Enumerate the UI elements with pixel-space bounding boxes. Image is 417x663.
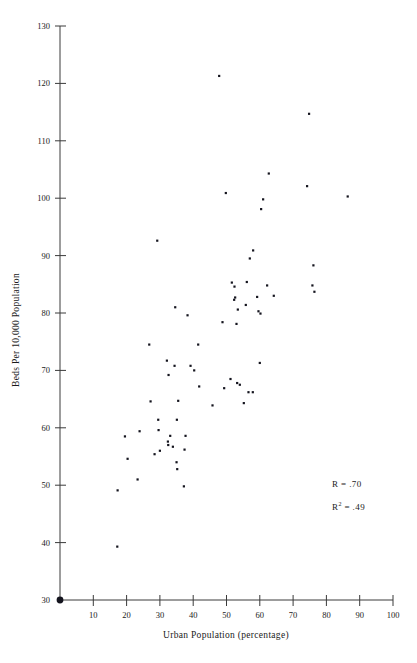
y-tick-label: 60 bbox=[42, 423, 51, 433]
data-point bbox=[245, 304, 247, 306]
data-point bbox=[184, 435, 186, 437]
y-tick-label: 130 bbox=[37, 21, 50, 31]
data-point bbox=[233, 299, 235, 301]
data-point bbox=[175, 461, 177, 463]
data-point bbox=[257, 310, 259, 312]
data-point bbox=[117, 489, 119, 491]
data-point bbox=[262, 198, 264, 200]
y-tick-label: 100 bbox=[37, 193, 50, 203]
data-point bbox=[138, 430, 140, 432]
data-point bbox=[233, 286, 235, 288]
data-point bbox=[193, 369, 195, 371]
data-points-layer bbox=[116, 75, 349, 548]
data-point bbox=[306, 185, 308, 187]
r-squared-annotation: R2 = .49 bbox=[332, 501, 365, 512]
data-point bbox=[249, 257, 251, 259]
x-tick-label: 90 bbox=[355, 610, 364, 620]
data-point bbox=[176, 419, 178, 421]
data-point bbox=[231, 281, 233, 283]
data-point bbox=[167, 444, 169, 446]
data-point bbox=[237, 308, 239, 310]
y-tick-label: 70 bbox=[42, 365, 51, 375]
data-point bbox=[235, 323, 237, 325]
data-point bbox=[312, 264, 314, 266]
data-point bbox=[183, 449, 185, 451]
x-tick-label: 40 bbox=[189, 610, 198, 620]
data-point bbox=[167, 440, 169, 442]
data-point bbox=[136, 478, 138, 480]
data-point bbox=[156, 240, 158, 242]
data-point bbox=[311, 284, 313, 286]
x-tick-label: 50 bbox=[222, 610, 231, 620]
data-point bbox=[197, 343, 199, 345]
data-point bbox=[273, 295, 275, 297]
x-tick-label: 30 bbox=[156, 610, 165, 620]
scatter-plot-figure: 30405060708090100110120130 1020304050607… bbox=[0, 0, 417, 663]
chart-canvas: 30405060708090100110120130 1020304050607… bbox=[0, 0, 417, 663]
y-tick-label: 90 bbox=[42, 251, 51, 261]
x-tick-label: 100 bbox=[387, 610, 400, 620]
data-point bbox=[259, 362, 261, 364]
correlation-annotation: R = .70 bbox=[332, 479, 362, 489]
data-point bbox=[221, 321, 223, 323]
data-point bbox=[347, 195, 349, 197]
y-tick-label: 110 bbox=[38, 136, 50, 146]
x-tick-label: 70 bbox=[289, 610, 298, 620]
y-tick-label: 120 bbox=[37, 78, 50, 88]
data-point bbox=[243, 402, 245, 404]
data-point bbox=[308, 113, 310, 115]
data-point bbox=[268, 172, 270, 174]
data-point bbox=[236, 382, 238, 384]
data-point bbox=[149, 400, 151, 402]
data-point bbox=[246, 281, 248, 283]
data-point bbox=[260, 208, 262, 210]
data-point bbox=[177, 400, 179, 402]
origin-marker bbox=[57, 597, 64, 604]
data-point bbox=[116, 546, 118, 548]
data-point bbox=[211, 404, 213, 406]
data-point bbox=[313, 291, 315, 293]
data-point bbox=[252, 249, 254, 251]
data-point bbox=[189, 365, 191, 367]
x-tick-label: 80 bbox=[322, 610, 331, 620]
data-point bbox=[157, 419, 159, 421]
data-point bbox=[266, 284, 268, 286]
y-axis-ticks: 30405060708090100110120130 bbox=[37, 21, 66, 605]
data-point bbox=[247, 391, 249, 393]
r-squared-rest: = .49 bbox=[342, 502, 365, 512]
x-tick-label: 20 bbox=[122, 610, 131, 620]
y-tick-label: 50 bbox=[42, 480, 51, 490]
data-point bbox=[157, 429, 159, 431]
data-point bbox=[166, 360, 168, 362]
data-point bbox=[218, 75, 220, 77]
data-point bbox=[169, 435, 171, 437]
data-point bbox=[229, 378, 231, 380]
data-point bbox=[234, 296, 236, 298]
data-point bbox=[159, 450, 161, 452]
data-point bbox=[167, 374, 169, 376]
data-point bbox=[252, 391, 254, 393]
data-point bbox=[176, 468, 178, 470]
data-point bbox=[225, 192, 227, 194]
data-point bbox=[239, 384, 241, 386]
data-point bbox=[198, 385, 200, 387]
y-axis-title: Beds Per 10,000 Population bbox=[11, 273, 21, 387]
data-point bbox=[256, 296, 258, 298]
data-point bbox=[172, 446, 174, 448]
axes-group bbox=[60, 26, 393, 600]
x-tick-label: 10 bbox=[89, 610, 98, 620]
data-point bbox=[173, 365, 175, 367]
data-point bbox=[174, 306, 176, 308]
x-axis-ticks: 102030405060708090100 bbox=[89, 595, 399, 620]
data-point bbox=[153, 453, 155, 455]
data-point bbox=[186, 314, 188, 316]
y-tick-label: 40 bbox=[42, 538, 51, 548]
data-point bbox=[127, 458, 129, 460]
y-tick-label: 30 bbox=[42, 595, 51, 605]
data-point bbox=[183, 485, 185, 487]
x-axis-title: Urban Population (percentage) bbox=[163, 630, 289, 641]
data-point bbox=[124, 435, 126, 437]
x-tick-label: 60 bbox=[256, 610, 265, 620]
data-point bbox=[223, 387, 225, 389]
data-point bbox=[148, 343, 150, 345]
